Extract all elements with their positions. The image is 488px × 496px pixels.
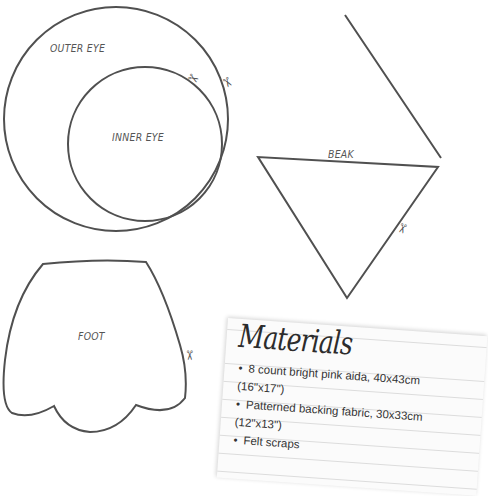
foot-label: FOOT	[78, 330, 105, 343]
materials-list: 8 count bright pink aida, 40x43cm (16"x1…	[233, 359, 426, 462]
beak-label: BEAK	[328, 148, 354, 161]
scissors-icon: ✂	[183, 350, 196, 361]
materials-card: Materials 8 count bright pink aida, 40x4…	[217, 318, 488, 496]
inner-eye-outline	[68, 67, 222, 221]
materials-item-text: Felt scraps	[243, 434, 300, 450]
foot-outline	[4, 260, 186, 432]
outer-eye-outline	[4, 7, 228, 231]
outer-eye-label: OUTER EYE	[50, 42, 105, 55]
materials-title: Materials	[237, 317, 353, 363]
inner-eye-label: INNER EYE	[112, 131, 164, 144]
